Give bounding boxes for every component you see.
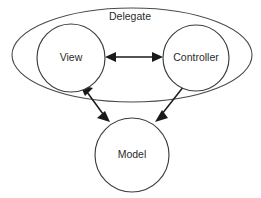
arrowhead-toward-model-from-view: [97, 111, 110, 122]
node-view[interactable]: View: [37, 24, 105, 92]
arrowhead-toward-view: [105, 52, 116, 62]
delegate-group-label: Delegate: [109, 10, 151, 22]
connector-view-model: [80, 85, 110, 122]
view-label: View: [60, 51, 83, 63]
mvc-delegate-diagram: Delegate View Controller: [0, 0, 261, 198]
node-controller[interactable]: Controller: [163, 25, 229, 91]
model-label: Model: [118, 148, 147, 160]
connector-view-controller: [105, 52, 163, 62]
connector-controller-model: [155, 86, 184, 122]
diagram-canvas: Delegate View Controller: [0, 0, 261, 198]
node-model[interactable]: Model: [95, 118, 169, 192]
arrowhead-toward-model-from-controller: [155, 110, 168, 122]
arrowhead-toward-controller: [152, 52, 163, 62]
controller-label: Controller: [173, 51, 219, 63]
